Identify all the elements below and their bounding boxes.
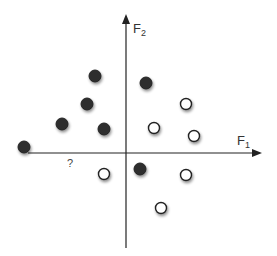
x-axis-label: F1 — [237, 134, 250, 150]
data-points — [18, 70, 200, 214]
x-axis-label-text: F — [237, 133, 245, 148]
dark-point — [140, 77, 152, 89]
scatter-plot — [0, 0, 277, 256]
white-point — [99, 169, 110, 180]
dark-point — [98, 123, 110, 135]
y-axis-arrow-icon — [122, 14, 130, 24]
feature-space-diagram: F2 F1 ? — [0, 0, 277, 256]
y-axis-label-subscript: 2 — [141, 28, 146, 38]
x-axis-label-subscript: 1 — [245, 140, 250, 150]
dark-point — [134, 163, 146, 175]
white-point — [181, 99, 192, 110]
white-point — [149, 123, 160, 134]
white-point — [156, 203, 167, 214]
white-point — [181, 170, 192, 181]
x-axis-arrow-icon — [252, 149, 262, 157]
white-point — [189, 131, 200, 142]
dark-point — [56, 118, 68, 130]
dark-point — [89, 70, 101, 82]
dark-point — [81, 98, 93, 110]
y-axis-label: F2 — [133, 22, 146, 38]
y-axis-label-text: F — [133, 21, 141, 36]
dark-point — [18, 141, 30, 153]
axes — [28, 14, 262, 248]
query-point-label: ? — [67, 158, 73, 169]
